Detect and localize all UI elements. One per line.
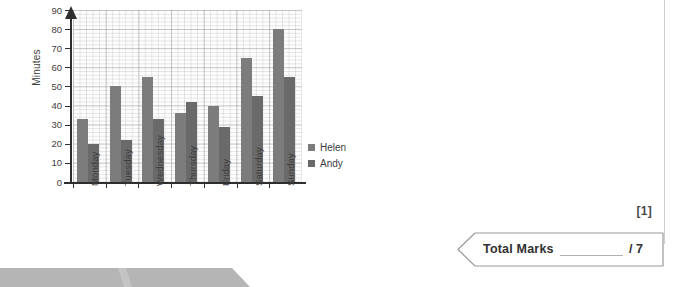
bar-group <box>204 10 237 182</box>
bar-monday-helen <box>77 119 88 182</box>
y-axis-tick-mark <box>65 144 70 145</box>
y-axis-tick-label: 20 <box>36 139 62 148</box>
y-axis-tick-mark <box>65 163 70 164</box>
bar-saturday-helen <box>241 58 252 182</box>
legend-item-andy: Andy <box>308 156 378 170</box>
legend-label: Helen <box>320 142 346 153</box>
y-axis-tick-label: 80 <box>36 25 62 34</box>
x-axis-label-sunday: Sunday <box>285 153 296 186</box>
y-axis-tick-mark <box>65 182 70 183</box>
bar-chart-figure: Minutes 0102030405060708090 MondayTuesda… <box>0 0 420 200</box>
y-axis-tick-label: 90 <box>36 6 62 15</box>
total-marks-banner: Total Marks / 7 <box>457 232 664 267</box>
footer-decoration-bar <box>0 265 250 287</box>
bar-sunday-helen <box>273 29 284 182</box>
x-axis-label-tuesday: Tuesday <box>122 149 133 186</box>
y-axis-tick-label: 30 <box>36 120 62 129</box>
legend-swatch-icon <box>308 144 315 151</box>
y-axis-tick-label: 60 <box>36 63 62 72</box>
y-axis-tick-label: 50 <box>36 82 62 91</box>
page-edge-rule <box>664 0 665 244</box>
y-axis-tick-labels: 0102030405060708090 <box>36 10 62 182</box>
chart-legend: HelenAndy <box>308 140 378 172</box>
y-axis-tick-mark <box>65 10 70 11</box>
x-axis-label-saturday: Saturday <box>253 147 264 186</box>
y-axis-tick-mark <box>65 67 70 68</box>
y-axis-tick-mark <box>65 86 70 87</box>
x-axis-label-friday: Friday <box>220 159 231 186</box>
bar-friday-helen <box>208 106 219 182</box>
y-axis-tick-mark <box>65 106 70 107</box>
y-axis-tick-mark <box>65 125 70 126</box>
y-axis-tick-mark <box>65 48 70 49</box>
legend-item-helen: Helen <box>308 140 378 154</box>
y-axis-tick-label: 70 <box>36 44 62 53</box>
y-axis-tick-mark <box>65 29 70 30</box>
legend-swatch-icon <box>308 160 315 167</box>
total-marks-label: Total Marks <box>483 242 554 256</box>
y-axis-line <box>70 16 72 183</box>
x-axis-label-monday: Monday <box>89 152 100 186</box>
x-axis-label-wednesday: Wednesday <box>154 135 165 186</box>
y-axis-arrow-icon <box>65 6 77 19</box>
y-axis-tick-label: 0 <box>36 178 62 187</box>
bar-tuesday-helen <box>110 86 121 182</box>
bar-thursday-helen <box>175 113 186 182</box>
y-axis-tick-label: 10 <box>36 158 62 167</box>
bar-wednesday-helen <box>142 77 153 182</box>
legend-label: Andy <box>320 158 343 169</box>
y-axis-tick-label: 40 <box>36 101 62 110</box>
x-axis-label-thursday: Thursday <box>187 146 198 186</box>
x-axis-category-labels: MondayTuesdayWednesdayThursdayFridaySatu… <box>73 186 302 246</box>
total-marks-out-of: / 7 <box>629 242 643 256</box>
question-mark-allocation: [1] <box>636 204 652 218</box>
total-marks-answer-rule <box>560 255 623 256</box>
